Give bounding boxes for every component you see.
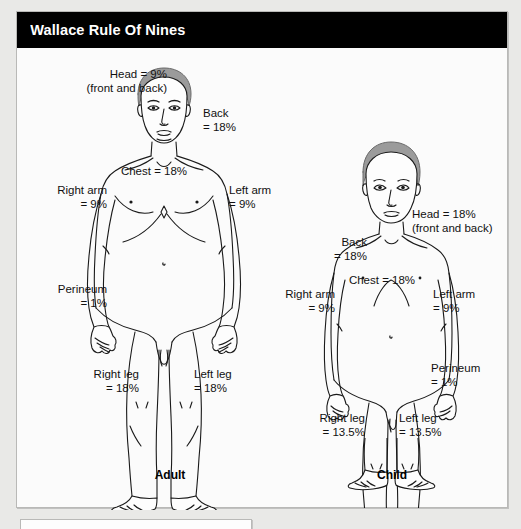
child-label-left-arm: Left arm = 9% (433, 288, 503, 315)
adult-arm-right-inner (213, 200, 225, 327)
child-label-back: Back = 18% (307, 236, 367, 263)
figure-area: Head = 9% (front and back) Back = 18% Ch… (17, 48, 507, 507)
child-label-head: Head = 18% (front and back) (412, 208, 521, 235)
child-arm-left-inner (337, 280, 345, 396)
child-label-chest: Chest = 18% (327, 274, 437, 288)
adult-label-perineum: Perineum = 1% (39, 283, 107, 310)
child-label-perineum: Perineum = 1% (431, 362, 501, 389)
page-root: Wallace Rule Of Nines (0, 0, 521, 529)
child-label-right-leg: Right leg = 13.5% (287, 412, 365, 439)
adult-foot-left (112, 496, 157, 510)
adult-foot-right (171, 496, 216, 510)
adult-torso-right (177, 156, 234, 308)
child-head (366, 152, 417, 223)
adult-label-chest: Chest = 18% (99, 165, 209, 179)
page-title: Wallace Rule Of Nines (17, 21, 185, 39)
child-label-right-arm: Right arm = 9% (269, 288, 335, 315)
adult-label-head: Head = 9% (front and back) (55, 68, 167, 95)
adult-leg-left-outer (127, 332, 135, 496)
adult-label-back: Back = 18% (203, 107, 283, 134)
adult-nipple-left (129, 200, 132, 203)
panel-title-bar: Wallace Rule Of Nines (17, 12, 507, 48)
adult-label-right-leg: Right leg = 18% (73, 368, 139, 395)
secondary-panel (20, 519, 252, 529)
child-caption: Child (357, 468, 427, 482)
adult-label-right-arm: Right arm = 9% (41, 184, 107, 211)
adult-label-left-leg: Left leg = 18% (194, 368, 264, 395)
child-label-left-leg: Left leg = 13.5% (399, 412, 479, 439)
adult-label-left-arm: Left arm = 9% (229, 184, 299, 211)
wallace-rule-panel: Wallace Rule Of Nines (16, 11, 508, 508)
adult-nipple-right (195, 200, 198, 203)
adult-caption: Adult (135, 468, 205, 482)
